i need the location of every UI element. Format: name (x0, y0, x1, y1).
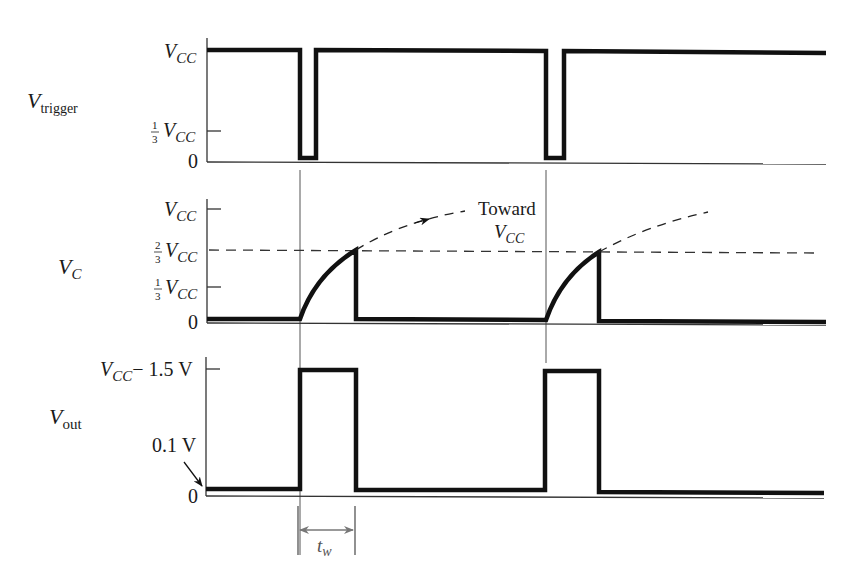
svg-text:3: 3 (155, 290, 161, 302)
vc-tick-third-label: 1 3 VCC (154, 276, 198, 302)
trigger-tick-third-label: 1 3 VCC (151, 119, 196, 145)
toward-vcc-curve-2 (599, 212, 708, 252)
toward-label: Toward (478, 198, 536, 219)
svg-text:VCC: VCC (165, 239, 198, 265)
output-panel: Vout VCC− 1.5 V 0.1 V 0 (49, 357, 824, 507)
trigger-waveform (207, 50, 826, 158)
trigger-tick-vcc-label: VCC (164, 40, 197, 66)
vout-label: Vout (49, 404, 82, 432)
vc-tick-zero-label: 0 (188, 311, 198, 333)
vc-tick-vcc-label: VCC (164, 198, 197, 224)
svg-text:VCC: VCC (163, 119, 196, 145)
vout-tick-zero-label: 0 (188, 485, 198, 507)
svg-text:VCC: VCC (165, 276, 198, 302)
capacitor-panel: Toward VCC VC VCC 2 3 VCC 1 3 VCC 0 (58, 198, 826, 333)
toward-vcc-curve-1 (356, 211, 465, 250)
vout-waveform (206, 370, 824, 493)
toward-vcc-label: VCC (494, 221, 525, 246)
trigger-tick-zero-label: 0 (188, 150, 198, 172)
trigger-label: Vtrigger (27, 88, 78, 116)
toward-arrow-icon (415, 219, 429, 223)
vout-tick-low-label: 0.1 V (152, 434, 197, 456)
svg-text:2: 2 (155, 239, 161, 251)
vc-label: VC (58, 254, 82, 282)
timing-diagram: Vtrigger VCC 1 3 VCC 0 Toward VCC VC VCC… (0, 0, 855, 587)
svg-text:1: 1 (152, 119, 158, 131)
svg-text:3: 3 (152, 133, 158, 145)
low-level-arrow-icon (184, 462, 202, 486)
svg-text:1: 1 (155, 276, 161, 288)
vout-tick-high-label: VCC− 1.5 V (100, 358, 193, 384)
vc-tick-two-thirds-label: 2 3 VCC (154, 239, 198, 265)
trigger-x-axis (207, 162, 826, 164)
svg-text:3: 3 (155, 253, 161, 265)
vout-x-axis (206, 496, 824, 498)
pulse-width-marker: tw (298, 506, 355, 559)
trigger-panel: Vtrigger VCC 1 3 VCC 0 (27, 38, 826, 172)
tw-label: tw (317, 535, 332, 559)
